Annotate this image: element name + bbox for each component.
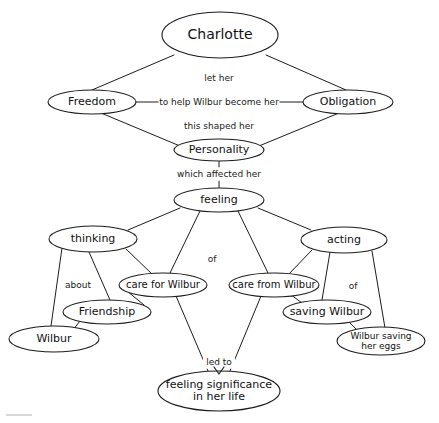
edge-label-this-shaped: this shaped her bbox=[184, 121, 254, 131]
edge-charlotte-to-obligation bbox=[266, 55, 346, 90]
edge-thinking-to-wilbur bbox=[51, 248, 62, 326]
node-wilbur[interactable]: Wilbur bbox=[9, 326, 99, 352]
edge-feeling-to-carefromw bbox=[238, 211, 268, 273]
edge-label-let-her: let her bbox=[204, 73, 234, 83]
node-acting[interactable]: acting bbox=[301, 227, 387, 253]
node-label-obligation: Obligation bbox=[320, 95, 377, 108]
edge-charlotte-to-freedom bbox=[92, 55, 174, 90]
concept-map-svg: CharlotteFreedomObligationPersonalityfee… bbox=[0, 0, 439, 423]
node-label-personality: Personality bbox=[189, 143, 250, 156]
edge-label-which-affected: which affected her bbox=[177, 169, 261, 179]
edge-label-to-help: to help Wilbur become her bbox=[159, 97, 279, 107]
edge-thinking-to-careforw bbox=[126, 249, 152, 274]
node-wsavingeggs[interactable]: Wilbur savingher eggs bbox=[337, 327, 425, 355]
node-personality[interactable]: Personality bbox=[174, 139, 264, 161]
node-label-thinking: thinking bbox=[71, 232, 116, 245]
node-thinking[interactable]: thinking bbox=[49, 226, 137, 252]
page-edge-artifact bbox=[6, 414, 32, 416]
node-label-feeling: feeling bbox=[200, 193, 237, 206]
edge-acting-to-carefromw bbox=[289, 250, 312, 274]
edge-acting-to-savingw bbox=[322, 252, 330, 300]
edge-feeling-to-careforw bbox=[170, 211, 200, 273]
node-charlotte[interactable]: Charlotte bbox=[162, 12, 278, 58]
node-careforw[interactable]: care for Wilbur bbox=[119, 273, 207, 297]
concept-map-canvas: CharlotteFreedomObligationPersonalityfee… bbox=[0, 0, 439, 423]
node-freedom[interactable]: Freedom bbox=[48, 90, 136, 114]
edge-thinking-to-friendship bbox=[89, 252, 110, 300]
node-label-careforw: care for Wilbur bbox=[126, 279, 201, 290]
node-label-savingw: saving Wilbur bbox=[290, 305, 365, 318]
node-obligation[interactable]: Obligation bbox=[303, 90, 393, 114]
node-feelsig[interactable]: feeling significancein her life bbox=[158, 371, 280, 411]
node-label-wilbur: Wilbur bbox=[36, 332, 72, 345]
node-feeling[interactable]: feeling bbox=[174, 188, 264, 212]
edge-acting-to-wsavingeggs bbox=[372, 251, 385, 328]
edge-freedom-to-personality bbox=[101, 113, 180, 146]
node-savingw[interactable]: saving Wilbur bbox=[283, 300, 371, 324]
node-label-freedom: Freedom bbox=[68, 95, 116, 108]
edge-label-led-to: led to bbox=[206, 357, 232, 367]
edge-feeling-to-thinking bbox=[128, 208, 180, 230]
edge-label-of-left: of bbox=[208, 254, 218, 264]
node-friendship[interactable]: Friendship bbox=[63, 300, 151, 324]
edge-obligation-to-personality bbox=[259, 113, 339, 146]
edge-label-of-right: of bbox=[349, 281, 359, 291]
node-label-friendship: Friendship bbox=[79, 305, 136, 318]
edge-feeling-to-acting bbox=[258, 208, 311, 230]
node-carefromw[interactable]: care from Wilbur bbox=[229, 273, 319, 297]
node-label-acting: acting bbox=[327, 233, 361, 246]
node-label-carefromw: care from Wilbur bbox=[232, 279, 316, 290]
node-label-charlotte: Charlotte bbox=[187, 26, 252, 42]
edge-label-about: about bbox=[65, 280, 91, 290]
